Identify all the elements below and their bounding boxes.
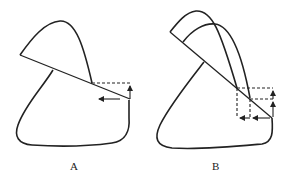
diagram-canvas: [0, 0, 289, 179]
figure-b: [157, 11, 273, 149]
figure-b-inner-flap: [183, 24, 250, 98]
figure-b-body: [157, 62, 273, 149]
figure-a-flap: [20, 21, 92, 83]
figure-a: [17, 21, 130, 146]
figure-b-label: B: [212, 160, 219, 172]
figure-b-cut-line: [170, 32, 272, 118]
figure-a-body: [17, 70, 130, 146]
figure-b-outer-flap: [170, 11, 237, 88]
figure-a-label: A: [70, 160, 78, 172]
